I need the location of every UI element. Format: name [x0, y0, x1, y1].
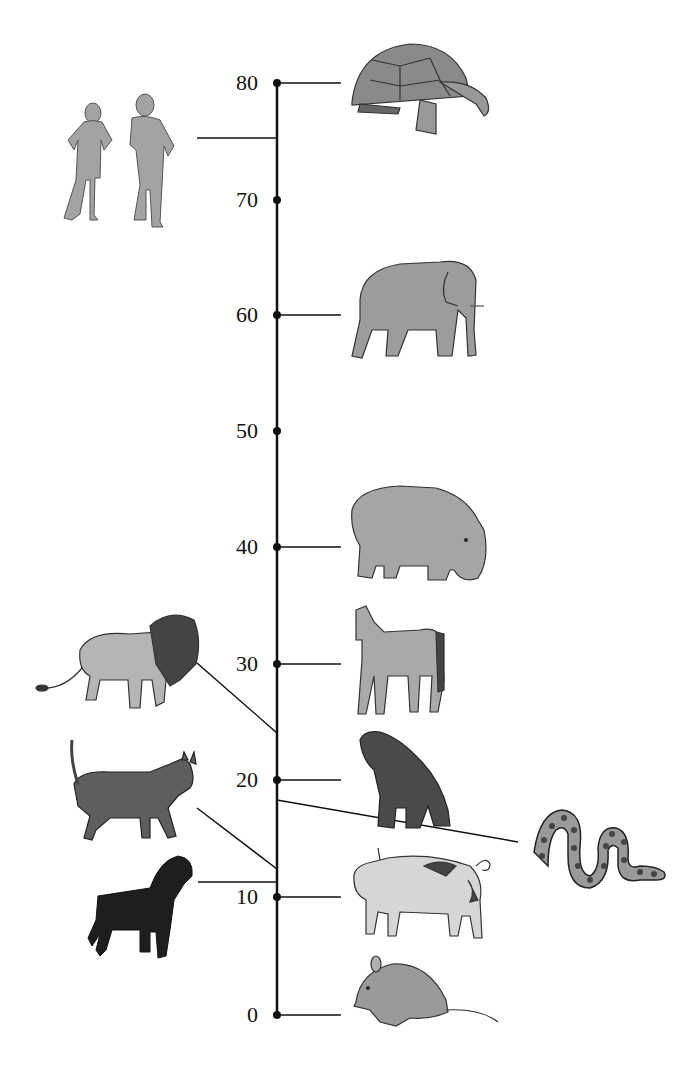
cat-connector: [197, 808, 277, 869]
horse-icon: [356, 606, 444, 714]
cat-icon: [72, 740, 196, 840]
pig-icon: [354, 848, 490, 938]
lifespan-chart: 80 70 60 50 40 30 20 10 0: [0, 0, 696, 1067]
lion-icon: [36, 615, 199, 708]
elephant-icon: [352, 261, 484, 358]
right-leader-lines: [277, 83, 341, 1015]
chart-graphics: [0, 0, 696, 1067]
mouse-icon: [354, 956, 498, 1026]
snake-icon: [534, 810, 665, 888]
dog-icon: [88, 856, 192, 958]
gorilla-icon: [360, 732, 450, 828]
tortoise-icon: [352, 44, 489, 134]
lion-connector: [197, 663, 277, 733]
humans-icon: [64, 94, 174, 227]
hippopotamus-icon: [352, 486, 486, 580]
